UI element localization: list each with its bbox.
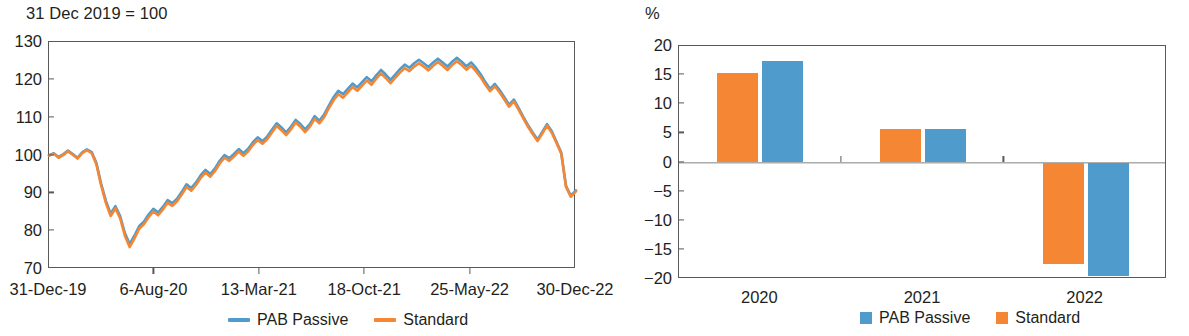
line-chart-x-tick xyxy=(153,268,154,274)
line-chart-x-tick-label: 13-Mar-21 xyxy=(221,280,297,299)
bar-chart-y-tick xyxy=(678,132,684,133)
legend-entry-pab-passive: PAB Passive xyxy=(860,310,970,326)
legend-label: Standard xyxy=(403,312,468,328)
line-chart-y-tick-label: 130 xyxy=(0,32,42,51)
line-series-standard xyxy=(49,61,576,247)
line-chart-y-tick xyxy=(48,116,54,117)
bar-chart-x-tick xyxy=(1003,156,1004,162)
bar-chart-y-tick-label: −15 xyxy=(620,239,672,258)
bar-chart-y-tick-label: 15 xyxy=(620,65,672,84)
bar-chart-y-tick xyxy=(678,74,684,75)
bar-chart-y-tick-label: −10 xyxy=(620,210,672,229)
line-chart-series-group xyxy=(49,42,576,269)
legend-swatch-line xyxy=(374,318,396,321)
bar-chart-y-tick-label: 20 xyxy=(620,36,672,55)
bar-chart-plot-area xyxy=(678,45,1166,278)
line-chart-x-tick-label: 25-May-22 xyxy=(430,280,509,299)
line-chart-y-tick-label: 70 xyxy=(0,259,42,278)
bar-2020-standard xyxy=(717,73,758,163)
bar-chart-y-tick-label: 5 xyxy=(620,123,672,142)
legend-entry-standard: Standard xyxy=(374,312,468,328)
legend-swatch-line xyxy=(228,318,250,321)
legend-label: Standard xyxy=(1015,310,1080,326)
line-chart-y-tick-label: 80 xyxy=(0,221,42,240)
bar-chart-y-tick-label: −20 xyxy=(620,269,672,288)
line-chart-y-tick-label: 100 xyxy=(0,145,42,164)
line-chart-y-tick-label: 110 xyxy=(0,107,42,126)
bar-2021-standard xyxy=(880,129,921,162)
line-chart-x-tick-label: 6-Aug-20 xyxy=(119,280,187,299)
line-chart-x-tick-label: 31-Dec-19 xyxy=(9,280,86,299)
legend-label: PAB Passive xyxy=(257,312,348,328)
legend-label: PAB Passive xyxy=(879,310,970,326)
legend-entry-pab-passive: PAB Passive xyxy=(228,312,348,328)
bar-chart-unit-label: % xyxy=(645,4,660,23)
line-chart-y-tick-label: 90 xyxy=(0,183,42,202)
legend-swatch-box xyxy=(860,312,872,324)
line-chart-y-tick-label: 120 xyxy=(0,69,42,88)
legend-entry-standard: Standard xyxy=(996,310,1080,326)
line-chart-x-tick xyxy=(364,268,365,274)
bar-chart-y-tick xyxy=(678,219,684,220)
line-series-pab-passive xyxy=(49,58,576,244)
line-chart-y-tick xyxy=(48,230,54,231)
bar-chart-y-tick-label: 0 xyxy=(620,152,672,171)
line-chart-plot-area xyxy=(48,41,575,268)
bar-2021-pab-passive xyxy=(925,129,966,163)
line-chart-x-tick-label: 18-Oct-21 xyxy=(328,280,401,299)
line-chart-panel: 31 Dec 2019 = 100 70809010011012013031-D… xyxy=(0,0,620,336)
bar-chart-y-tick-label: −5 xyxy=(620,181,672,200)
bar-chart-y-tick xyxy=(678,248,684,249)
bar-chart-x-tick-label: 2020 xyxy=(741,288,778,307)
bar-chart-x-tick xyxy=(840,156,841,162)
line-chart-y-tick xyxy=(48,154,54,155)
bar-2022-standard xyxy=(1043,163,1084,265)
bar-chart-y-tick-label: 10 xyxy=(620,94,672,113)
bar-chart-x-tick-label: 2022 xyxy=(1066,288,1103,307)
line-chart-x-tick xyxy=(258,268,259,274)
bar-chart-x-tick-label: 2021 xyxy=(904,288,941,307)
bar-2022-pab-passive xyxy=(1088,163,1129,276)
bar-chart-y-tick xyxy=(678,103,684,104)
bar-chart-y-tick xyxy=(678,161,684,162)
bar-chart-panel: % 20151050−5−10−15−20202020212022 PAB Pa… xyxy=(620,0,1189,336)
legend-swatch-box xyxy=(996,312,1008,324)
line-chart-x-tick-label: 30-Dec-22 xyxy=(536,280,613,299)
bar-chart-y-tick xyxy=(678,190,684,191)
bar-2020-pab-passive xyxy=(762,61,803,162)
line-chart-y-tick xyxy=(48,192,54,193)
line-chart-x-tick xyxy=(469,268,470,274)
bar-chart-legend: PAB PassiveStandard xyxy=(860,310,1080,326)
line-chart-y-tick xyxy=(48,78,54,79)
line-chart-legend: PAB PassiveStandard xyxy=(228,312,468,328)
line-chart-unit-label: 31 Dec 2019 = 100 xyxy=(26,4,168,23)
